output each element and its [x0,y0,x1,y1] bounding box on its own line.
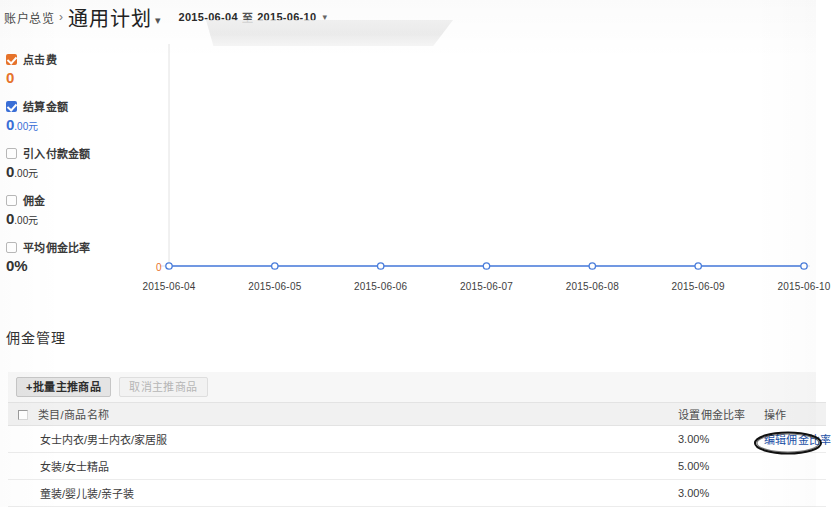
chart-data-point[interactable] [483,263,489,269]
commission-table-head: 类目/商品名称 设置佣金比率 操作 [8,403,826,426]
metric-label: 引入付款金额 [23,145,91,161]
commission-toolbar: +批量主推商品 取消主推商品 [8,372,816,402]
cell-commission-rate: 3.00% [678,480,764,507]
metric-value-unit: .00元 [14,168,38,179]
trend-chart [160,44,810,294]
cancel-promoted-products-button[interactable]: 取消主推商品 [119,377,207,397]
metric-value: 0.00元 [6,164,156,182]
chart-data-point[interactable] [272,263,278,269]
metric-value-number: 0 [6,69,14,86]
cell-category-name: 女士内衣/男士内衣/家居服 [8,426,678,453]
metric-value-number: 0% [6,257,28,274]
table-row[interactable]: 女士内衣/男士内衣/家居服3.00%编辑佣金比率 [8,426,826,453]
select-all-checkbox[interactable] [18,410,28,420]
commission-table-body: 女士内衣/男士内衣/家居服3.00%编辑佣金比率女装/女士精品5.00%童装/婴… [8,426,826,507]
chart-x-tick-labels: 2015-06-042015-06-052015-06-062015-06-07… [160,281,816,297]
commission-table: 类目/商品名称 设置佣金比率 操作 女士内衣/男士内衣/家居服3.00%编辑佣金… [8,402,826,507]
cell-commission-rate: 5.00% [678,453,764,480]
cell-action [764,453,826,480]
metric-label: 平均佣金比率 [23,239,91,255]
metric-item-commission[interactable]: 佣金 0.00元 [6,193,156,229]
metric-legend: 点击费 0 结算金额 0.00元 引入付款金额 0.00元 佣金 0.00元 [6,52,156,287]
metric-checkbox[interactable] [6,242,17,253]
metric-label: 点击费 [23,51,57,67]
breadcrumb-root[interactable]: 账户总览 [4,9,54,26]
metric-checkbox[interactable] [6,54,17,65]
metric-value-unit: .00元 [14,215,38,226]
breadcrumb-separator: › [59,10,63,24]
column-header-name-label: 类目/商品名称 [38,409,109,421]
table-header-row: 类目/商品名称 设置佣金比率 操作 [8,403,826,426]
cell-category-name: 女装/女士精品 [8,453,678,480]
metric-checkbox[interactable] [6,101,17,112]
chart-x-tick-label: 2015-06-05 [248,281,301,292]
metric-value: 0.00元 [6,211,156,229]
cell-action [764,480,826,507]
capture-glare-band [206,20,453,46]
metric-label: 佣金 [23,192,46,208]
chevron-down-icon[interactable]: ▾ [155,14,161,27]
cell-commission-rate: 3.00% [678,426,764,453]
column-header-action: 操作 [764,403,826,426]
metric-value: 0.00元 [6,117,156,135]
table-row[interactable]: 女装/女士精品5.00% [8,453,826,480]
trend-chart-svg [160,44,810,294]
add-bulk-promoted-products-button[interactable]: +批量主推商品 [16,377,111,397]
table-row[interactable]: 童装/婴儿装/亲子装3.00% [8,480,826,507]
metric-item-click-cost[interactable]: 点击费 0 [6,52,156,88]
section-title-commission: 佣金管理 [6,327,66,347]
cell-action: 编辑佣金比率 [764,426,826,453]
metric-item-referred-payment-amount[interactable]: 引入付款金额 0.00元 [6,146,156,182]
chart-data-point[interactable] [695,263,701,269]
chart-data-point[interactable] [801,263,807,269]
chart-x-tick-label: 2015-06-07 [460,281,513,292]
chart-x-tick-label: 2015-06-08 [566,281,619,292]
cell-category-name: 童装/婴儿装/亲子装 [8,480,678,507]
metric-label: 结算金额 [23,98,68,114]
chart-x-tick-label: 2015-06-04 [142,281,195,292]
page-title: 通用计划 [68,3,152,32]
metric-value-unit: .00元 [14,121,38,132]
chart-x-tick-label: 2015-06-10 [777,281,830,292]
metric-checkbox[interactable] [6,148,17,159]
chart-data-point[interactable] [166,263,172,269]
metric-item-settlement-amount[interactable]: 结算金额 0.00元 [6,99,156,135]
column-header-name: 类目/商品名称 [8,403,678,426]
metric-item-average-commission-rate[interactable]: 平均佣金比率 0% [6,240,156,276]
chart-x-tick-label: 2015-06-06 [354,281,407,292]
chart-y-zero-label: 0 [156,262,162,273]
column-header-rate: 设置佣金比率 [678,403,764,426]
chart-data-point[interactable] [378,263,384,269]
commission-panel: +批量主推商品 取消主推商品 类目/商品名称 设置佣金比率 操作 女士内衣/男士… [8,372,816,507]
chart-data-point[interactable] [589,263,595,269]
metric-checkbox[interactable] [6,195,17,206]
metric-value: 0% [6,258,156,276]
metric-value: 0 [6,70,156,88]
edit-commission-rate-link[interactable]: 编辑佣金比率 [764,434,831,446]
chart-x-tick-label: 2015-06-09 [672,281,725,292]
